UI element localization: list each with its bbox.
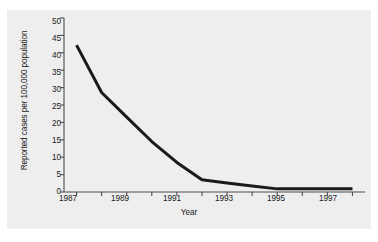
- y-axis-ticks: [60, 18, 64, 192]
- x-axis-ticks: [77, 192, 353, 196]
- plot-canvas: [7, 10, 371, 229]
- data-series-line: [77, 45, 353, 189]
- chart-panel: Reported cases per 100,000 population Ye…: [7, 10, 371, 229]
- axis-lines: [64, 18, 365, 192]
- chart-figure: Reported cases per 100,000 population Ye…: [0, 0, 378, 242]
